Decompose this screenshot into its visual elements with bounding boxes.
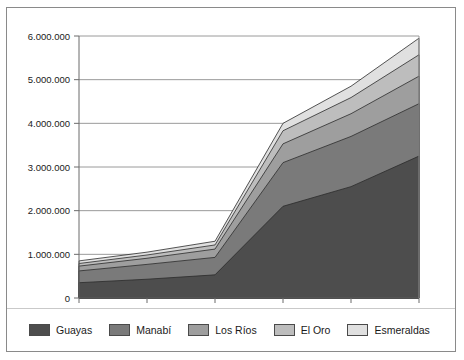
legend-swatch-icon <box>274 324 295 336</box>
y-tick-label: 4.000.000 <box>28 118 70 129</box>
chart-legend: GuayasManabíLos RíosEl OroEsmeraldas <box>7 309 455 351</box>
y-axis-ticks: 01.000.0002.000.0003.000.0004.000.0005.0… <box>28 31 79 304</box>
legend-swatch-icon <box>109 324 130 336</box>
y-tick-label: 1.000.000 <box>28 249 70 260</box>
y-tick-label: 3.000.000 <box>28 162 70 173</box>
legend-item-esmeraldas: Esmeraldas <box>347 324 429 336</box>
y-tick-label: 6.000.000 <box>28 31 70 42</box>
legend-label: Guayas <box>56 324 92 336</box>
chart-frame: 01.000.0002.000.0003.000.0004.000.0005.0… <box>6 7 456 352</box>
legend-label: Los Ríos <box>215 324 256 336</box>
y-tick-label: 0 <box>65 293 70 304</box>
legend-label: Manabí <box>136 324 171 336</box>
legend-item-manab: Manabí <box>109 324 171 336</box>
stacked-area-chart: 01.000.0002.000.0003.000.0004.000.0005.0… <box>7 8 457 308</box>
y-tick-label: 2.000.000 <box>28 205 70 216</box>
legend-label: El Oro <box>301 324 331 336</box>
legend-item-losros: Los Ríos <box>188 324 256 336</box>
legend-item-eloro: El Oro <box>274 324 331 336</box>
chart-plot-container: 01.000.0002.000.0003.000.0004.000.0005.0… <box>7 8 457 308</box>
legend-swatch-icon <box>347 324 368 336</box>
legend-swatch-icon <box>188 324 209 336</box>
y-tick-label: 5.000.000 <box>28 74 70 85</box>
legend-item-guayas: Guayas <box>29 324 92 336</box>
area-series-group <box>79 38 419 298</box>
legend-swatch-icon <box>29 324 50 336</box>
x-axis-ticks: 193519461950198219901996 <box>68 298 429 308</box>
legend-label: Esmeraldas <box>374 324 429 336</box>
